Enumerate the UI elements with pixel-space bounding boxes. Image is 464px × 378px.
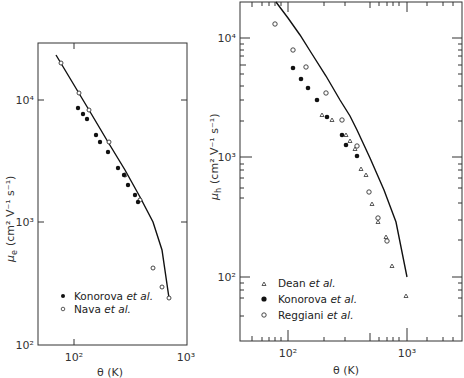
legend-reggiani: Reggiani et al. — [278, 309, 354, 321]
right-ytick-1e4: 10⁴ — [218, 32, 237, 45]
legend-marker-triangle — [262, 282, 266, 286]
left-legend: Konorova et al. Nava et al. — [61, 290, 153, 315]
left-y-ticks — [38, 100, 187, 222]
right-series-dean — [320, 113, 408, 298]
left-series-nava — [59, 61, 171, 300]
left-ytick-1e2: 10² — [16, 339, 34, 352]
legend-konorova: Konorova et al. — [74, 290, 153, 302]
right-x-axis-title: θ (K) — [333, 364, 359, 377]
legend-marker-open-circle — [61, 307, 65, 311]
left-series-konorova — [76, 106, 140, 204]
legend-konorova: Konorova et al. — [278, 293, 357, 305]
right-legend: Dean et al. Konorova et al. Reggiani et … — [261, 277, 357, 321]
left-theory-curve — [56, 55, 169, 298]
legend-dean: Dean et al. — [278, 277, 336, 289]
left-ytick-1e3: 10³ — [16, 216, 34, 229]
right-x-ticks — [252, 2, 453, 341]
right-y-axis-title: μh(cm² V⁻¹ s⁻¹) — [208, 113, 223, 201]
legend-marker-filled-circle — [61, 294, 65, 298]
left-xtick-1e3: 10³ — [177, 351, 195, 364]
right-plot-frame — [240, 2, 462, 341]
right-xtick-1e3: 10³ — [398, 347, 416, 360]
right-ytick-1e2: 10² — [218, 271, 236, 284]
legend-marker-open-circle — [262, 313, 266, 317]
svg-text:μe(cm² V⁻¹ s⁻¹): μe(cm² V⁻¹ s⁻¹) — [4, 176, 19, 263]
right-theory-curve — [276, 2, 407, 277]
right-series-reggiani — [273, 22, 389, 243]
left-y-axis-title: μe(cm² V⁻¹ s⁻¹) — [4, 176, 19, 263]
right-y-ticks — [240, 38, 462, 316]
left-x-axis-title: θ (K) — [97, 366, 123, 378]
right-panel: 10⁴ 10³ 10² 10² 10³ θ (K) μh(cm² V⁻¹ s⁻¹… — [208, 2, 462, 377]
figure: 10⁴ 10³ 10² 10² 10³ θ (K) μe(cm² V⁻¹ s⁻¹… — [0, 0, 464, 378]
left-xtick-1e2: 10² — [65, 351, 83, 364]
legend-marker-filled-circle — [261, 296, 266, 301]
left-panel: 10⁴ 10³ 10² 10² 10³ θ (K) μe(cm² V⁻¹ s⁻¹… — [4, 43, 195, 378]
legend-nava: Nava et al. — [74, 303, 131, 315]
left-ytick-1e4: 10⁴ — [16, 94, 35, 107]
right-series-konorova — [291, 66, 360, 159]
svg-text:μh(cm² V⁻¹ s⁻¹): μh(cm² V⁻¹ s⁻¹) — [208, 113, 223, 201]
right-xtick-1e2: 10² — [279, 347, 297, 360]
